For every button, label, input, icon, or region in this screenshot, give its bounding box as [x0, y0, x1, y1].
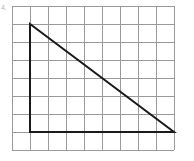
- figure-canvas: 4.: [0, 0, 194, 161]
- grid-and-triangle-svg: [0, 0, 194, 161]
